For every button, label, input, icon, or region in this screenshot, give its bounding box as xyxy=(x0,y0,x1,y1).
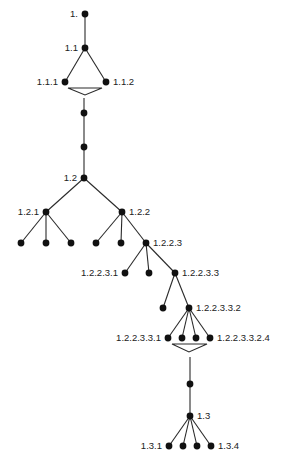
tree-diagram-svg: 1.1.11.1.11.1.21.21.2.11.2.21.2.2.31.2.2… xyxy=(0,0,290,460)
tree-node-1-2 xyxy=(81,175,88,182)
tree-node xyxy=(93,240,100,247)
tree-node xyxy=(146,270,153,277)
tree-node xyxy=(193,335,200,342)
tree-node-1-2-2-3-3-2 xyxy=(186,305,193,312)
tree-node xyxy=(187,381,194,388)
node-label: 1.3 xyxy=(197,410,210,421)
tree-node-1-2-2 xyxy=(119,209,126,216)
node-label: 1.2.2.3.1 xyxy=(81,267,118,278)
tree-node-1 xyxy=(82,11,89,18)
node-label: 1.3.1 xyxy=(141,440,162,451)
merge-funnel-icon xyxy=(68,88,102,95)
tree-node xyxy=(179,335,186,342)
node-label: 1.2 xyxy=(64,172,77,183)
node-label: 1.2.2.3.3 xyxy=(182,267,219,278)
node-label: 1.2.2.3 xyxy=(153,237,182,248)
tree-node xyxy=(118,240,125,247)
tree-diagram: 1.1.11.1.11.1.21.21.2.11.2.21.2.2.31.2.2… xyxy=(0,0,290,460)
tree-node xyxy=(160,305,167,312)
tree-node-1-1-2 xyxy=(103,79,110,86)
tree-edge xyxy=(85,48,106,82)
node-label: 1.2.1 xyxy=(18,206,39,217)
tree-node-1-3 xyxy=(187,413,194,420)
node-label: 1.1.2 xyxy=(113,76,134,87)
tree-node-1-2-2-3-1 xyxy=(122,270,129,277)
tree-node-1-2-2-3 xyxy=(143,240,150,247)
node-label: 1.1.1 xyxy=(37,76,58,87)
tree-node-1-3-1 xyxy=(166,443,173,450)
node-label: 1.1 xyxy=(65,42,78,53)
node-label: 1. xyxy=(70,8,78,19)
tree-node-1-1 xyxy=(82,45,89,52)
node-label: 1.2.2.3.3.1 xyxy=(116,332,161,343)
tree-node-1-3-4 xyxy=(208,443,215,450)
tree-node xyxy=(81,110,88,117)
node-label: 1.2.2.3.3.2 xyxy=(196,302,241,313)
tree-edge xyxy=(125,243,146,273)
tree-node xyxy=(194,443,201,450)
labels-layer: 1.1.11.1.11.1.21.21.2.11.2.21.2.2.31.2.2… xyxy=(18,8,270,451)
tree-edge xyxy=(96,212,122,243)
tree-edge xyxy=(163,273,175,308)
tree-edge xyxy=(146,243,149,273)
tree-edge xyxy=(121,212,122,243)
tree-node-1-2-1 xyxy=(43,209,50,216)
merge-funnel-icon xyxy=(172,344,207,352)
tree-edge xyxy=(46,212,71,243)
tree-node-1-2-2-3-3 xyxy=(172,270,179,277)
node-label: 1.2.2 xyxy=(129,206,150,217)
tree-node-1-1-1 xyxy=(62,79,69,86)
tree-node xyxy=(68,240,75,247)
tree-node xyxy=(43,240,50,247)
tree-node-1-2-2-3-3-1 xyxy=(165,335,172,342)
node-label: 1.3.4 xyxy=(218,440,239,451)
tree-node xyxy=(81,144,88,151)
tree-node-1-2-2-3-3-2-4 xyxy=(207,335,214,342)
tree-edge xyxy=(84,178,122,212)
node-label: 1.2.2.3.3.2.4 xyxy=(217,332,270,343)
tree-node xyxy=(18,240,25,247)
tree-node xyxy=(180,443,187,450)
